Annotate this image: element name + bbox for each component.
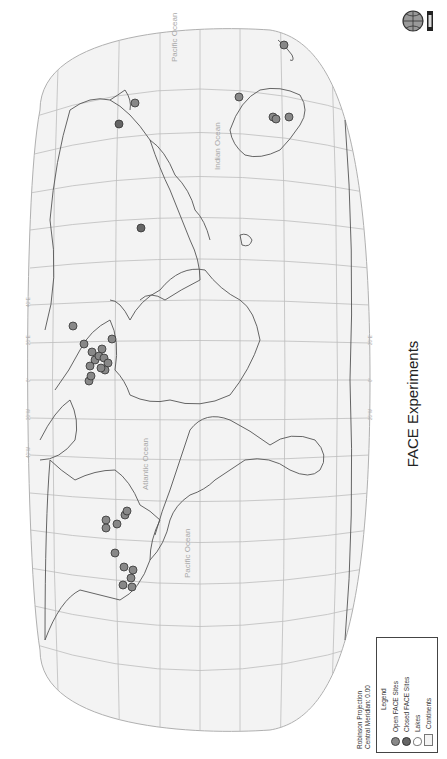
- svg-text:0°: 0°: [368, 377, 373, 382]
- legend-item-open-sites: Open FACE Sites: [390, 681, 400, 746]
- legend-item-closed-sites: Closed FACE Sites: [401, 677, 411, 746]
- svg-text:20°W: 20°W: [26, 408, 31, 420]
- legend: Robinson Projection Central Meridian: 0.…: [354, 633, 446, 753]
- ocean-label-pacific-east: Pacific Ocean: [183, 529, 192, 578]
- legend-item-continents: Continents: [423, 698, 433, 746]
- legend-label: Open FACE Sites: [392, 681, 399, 732]
- closed-site-icon: [402, 737, 411, 746]
- svg-text:0°: 0°: [26, 377, 31, 382]
- agency-logo: [401, 8, 435, 34]
- legend-label: Lakes: [414, 715, 421, 732]
- continent-icon: [424, 734, 433, 746]
- ocean-label-pacific-west: Pacific Ocean: [170, 13, 179, 62]
- globe-logo-icon: [401, 8, 435, 34]
- legend-label: Continents: [425, 698, 432, 729]
- ocean-label-atlantic: Atlantic Ocean: [141, 438, 150, 490]
- ocean-label-indian: Indian Ocean: [213, 122, 222, 170]
- central-meridian: Central Meridian: 0.00: [364, 685, 372, 749]
- map-title: FACE Experiments: [404, 341, 421, 468]
- legend-item-lakes: Lakes: [412, 715, 422, 746]
- legend-box: Legend Open FACE Sites Closed FACE Sites…: [376, 637, 438, 753]
- open-site-icon: [391, 737, 400, 746]
- legend-heading: Legend: [380, 688, 387, 710]
- svg-text:40°W: 40°W: [26, 446, 31, 458]
- svg-text:40°E: 40°E: [26, 297, 31, 307]
- projection-name: Robinson Projection: [356, 685, 364, 749]
- svg-text:20°W: 20°W: [368, 408, 373, 420]
- svg-text:20°E: 20°E: [368, 335, 373, 345]
- projection-info: Robinson Projection Central Meridian: 0.…: [356, 685, 372, 749]
- svg-text:20°E: 20°E: [26, 335, 31, 345]
- legend-label: Closed FACE Sites: [403, 677, 410, 732]
- lake-icon: [413, 737, 422, 746]
